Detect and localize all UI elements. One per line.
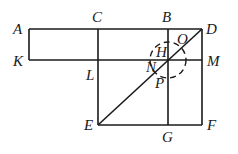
- label-H: H: [155, 44, 168, 60]
- label-A: A: [12, 21, 23, 37]
- label-B: B: [162, 9, 171, 25]
- label-N: N: [145, 59, 157, 75]
- label-O: O: [177, 31, 188, 47]
- label-C: C: [92, 9, 103, 25]
- label-E: E: [83, 117, 93, 133]
- label-M: M: [206, 53, 221, 69]
- label-L: L: [85, 67, 94, 83]
- geometry-diagram: A C B D K L H M N O P E G F: [0, 0, 238, 154]
- label-D: D: [205, 21, 217, 37]
- label-P: P: [154, 75, 164, 91]
- label-F: F: [206, 117, 217, 133]
- label-G: G: [162, 129, 173, 145]
- label-K: K: [12, 53, 24, 69]
